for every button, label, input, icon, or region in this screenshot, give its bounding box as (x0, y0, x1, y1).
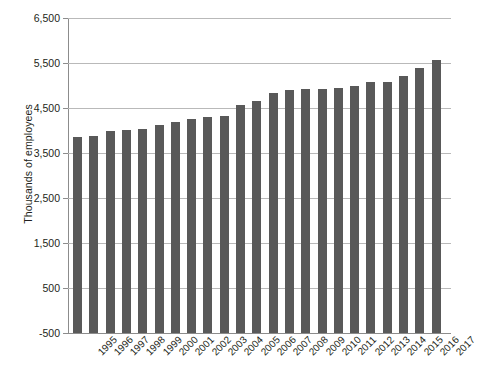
y-tick-label: 2,500 (34, 192, 60, 204)
bar (318, 89, 327, 333)
bar (301, 89, 310, 333)
bar (285, 90, 294, 333)
y-tick-label: 3,500 (34, 147, 60, 159)
bar (89, 136, 98, 333)
bar (203, 117, 212, 333)
bar (252, 101, 261, 333)
y-tick-label: 500 (42, 282, 60, 294)
bar (155, 125, 164, 333)
y-tick-label: 1,500 (34, 237, 60, 249)
y-axis-title: Thousands of employees (22, 64, 34, 264)
bar (269, 93, 278, 333)
bar-series (68, 18, 451, 333)
bar (399, 76, 408, 333)
bar (350, 86, 359, 334)
x-axis-labels: 1995199619971998199920002001200220032004… (68, 334, 451, 384)
bar (122, 130, 131, 333)
bar (415, 68, 424, 334)
bar (73, 137, 82, 333)
bar (236, 105, 245, 333)
bar (334, 88, 343, 333)
bar (383, 82, 392, 333)
plot-area: 6,5005,5004,5003,5002,5001,500500-500 (68, 18, 451, 333)
bar (187, 119, 196, 333)
y-tick-label: -500 (39, 327, 60, 339)
bar (106, 131, 115, 334)
y-tick-label: 4,500 (34, 102, 60, 114)
y-tick-label: 6,500 (34, 12, 60, 24)
bar (171, 122, 180, 333)
bar (432, 60, 441, 333)
bar (138, 129, 147, 333)
bar (366, 82, 375, 333)
y-tick-label: 5,500 (34, 57, 60, 69)
bar (220, 116, 229, 333)
